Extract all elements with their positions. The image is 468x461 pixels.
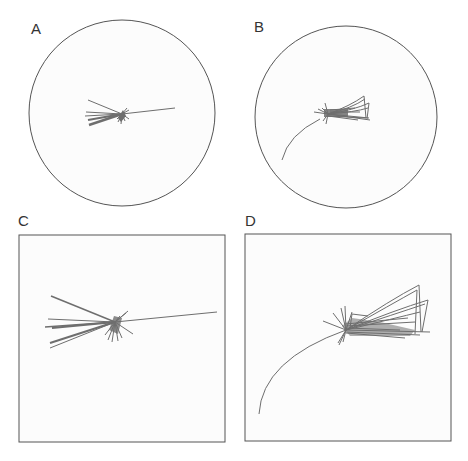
figure-canvas (0, 0, 468, 461)
arena-square-c (19, 235, 225, 442)
panel-b (255, 26, 437, 208)
panel-a (29, 20, 215, 206)
panel-d (245, 234, 451, 441)
arena-square-d (245, 234, 451, 441)
panel-c (19, 235, 225, 442)
